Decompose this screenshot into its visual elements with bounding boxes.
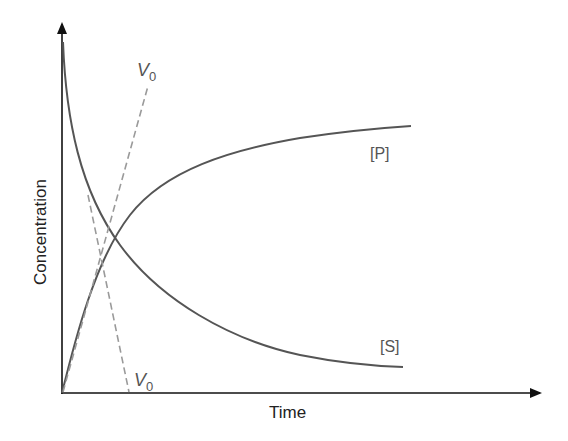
x-axis-label: Time <box>269 403 306 422</box>
v0-bottom-label: V0 <box>134 370 153 394</box>
v0-product-tangent <box>63 86 148 392</box>
y-axis-label: Concentration <box>31 179 50 285</box>
kinetics-diagram: V0 V0 [P] [S] Time Concentration <box>0 0 568 441</box>
v0-top-label: V0 <box>137 60 156 84</box>
substrate-label: [S] <box>380 338 400 355</box>
product-curve <box>62 126 411 393</box>
product-label: [P] <box>370 145 390 162</box>
